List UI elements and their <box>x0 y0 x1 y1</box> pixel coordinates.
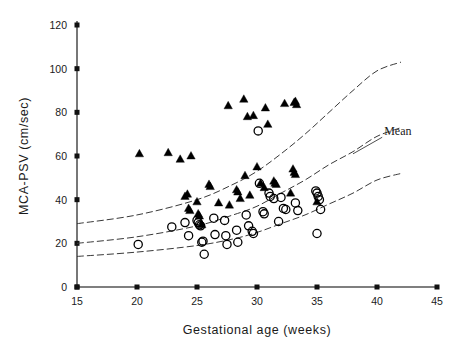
plot-canvas: 02040608010012015202530354045 Gestationa… <box>0 0 456 345</box>
x-tick-mark <box>435 285 440 290</box>
data-point-triangle <box>280 99 288 106</box>
x-tick-mark <box>195 285 200 290</box>
y-tick-mark <box>75 66 80 71</box>
y-tick-label: 0 <box>61 281 67 293</box>
data-point-circle <box>211 231 219 239</box>
reference-curve-mean-curve <box>77 128 401 244</box>
x-tick-mark <box>75 285 80 290</box>
x-tick-label: 45 <box>431 295 443 307</box>
x-tick-label: 25 <box>191 295 203 307</box>
data-point-triangle <box>135 149 143 156</box>
data-point-triangle <box>286 189 294 196</box>
y-tick-label: 40 <box>55 194 67 206</box>
data-point-circle <box>313 229 321 237</box>
data-point-circle <box>291 199 299 207</box>
mean-curve-label: Mean <box>384 124 411 138</box>
data-point-triangle <box>264 120 272 127</box>
data-point-triangle <box>261 104 269 111</box>
data-point-triangle <box>224 101 232 108</box>
y-tick-label: 100 <box>49 63 67 75</box>
y-tick-label: 120 <box>49 19 67 31</box>
x-tick-mark <box>135 285 140 290</box>
data-point-circle <box>210 214 218 222</box>
x-tick-mark <box>375 285 380 290</box>
data-point-circle <box>168 223 176 231</box>
data-point-triangle <box>249 111 257 118</box>
y-tick-mark <box>75 110 80 115</box>
x-tick-label: 20 <box>131 295 143 307</box>
data-point-triangle <box>253 162 261 169</box>
y-tick-mark <box>75 23 80 28</box>
y-axis-title: MCA-PSV (cm/sec) <box>17 97 31 215</box>
data-point-circle <box>222 232 230 240</box>
data-point-triangle <box>176 155 184 162</box>
y-tick-mark <box>75 197 80 202</box>
y-tick-label: 20 <box>55 237 67 249</box>
data-point-circle <box>185 232 193 240</box>
data-point-circle <box>242 211 250 219</box>
mean-label-leader-line <box>353 137 382 154</box>
reference-curve-lower-curve <box>77 173 401 256</box>
data-point-triangle <box>164 148 172 155</box>
x-tick-label: 15 <box>71 295 83 307</box>
data-point-circle <box>221 216 229 224</box>
x-tick-label: 30 <box>251 295 263 307</box>
data-point-circle <box>233 226 241 234</box>
x-tick-label: 35 <box>311 295 323 307</box>
data-point-circle <box>234 238 242 246</box>
data-point-circle <box>294 206 302 214</box>
y-tick-mark <box>75 154 80 159</box>
axes: 02040608010012015202530354045 <box>49 19 443 307</box>
data-point-circle <box>223 240 231 248</box>
data-point-triangle <box>246 191 254 198</box>
mca-psv-scatter-chart: 02040608010012015202530354045 Gestationa… <box>0 0 456 345</box>
x-tick-label: 40 <box>371 295 383 307</box>
data-point-triangle <box>240 95 248 102</box>
data-point-circle <box>181 218 189 226</box>
data-point-triangle <box>187 152 195 159</box>
data-point-triangle <box>225 201 233 208</box>
x-axis-title: Gestational age (weeks) <box>183 323 332 337</box>
data-point-circle <box>134 240 142 248</box>
data-point-circle <box>200 250 208 258</box>
data-point-triangle <box>241 171 249 178</box>
x-tick-mark <box>315 285 320 290</box>
data-point-triangle <box>214 198 222 205</box>
x-tick-mark <box>255 285 260 290</box>
data-points <box>134 95 325 259</box>
y-tick-label: 80 <box>55 106 67 118</box>
data-point-circle <box>254 127 262 135</box>
y-tick-label: 60 <box>55 150 67 162</box>
